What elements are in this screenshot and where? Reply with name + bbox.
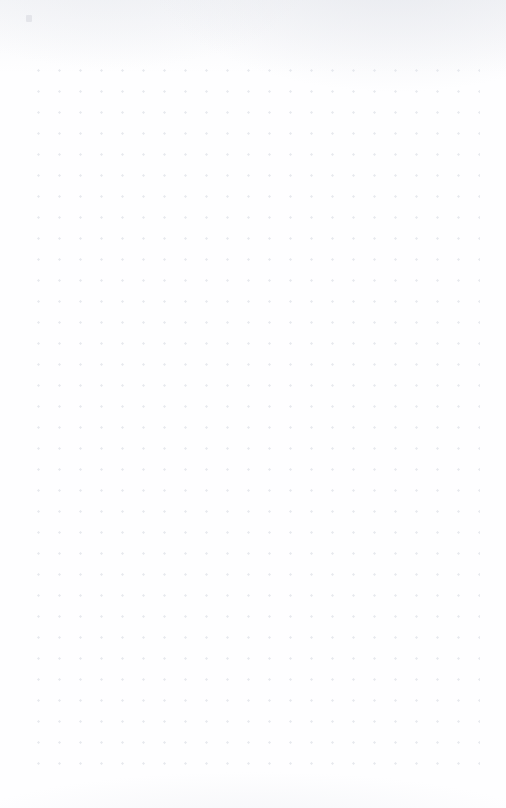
notebook-page — [0, 0, 506, 808]
scan-artifact-mark — [26, 15, 32, 22]
dot-grid — [28, 60, 480, 776]
paper-texture-overlay — [0, 0, 506, 808]
